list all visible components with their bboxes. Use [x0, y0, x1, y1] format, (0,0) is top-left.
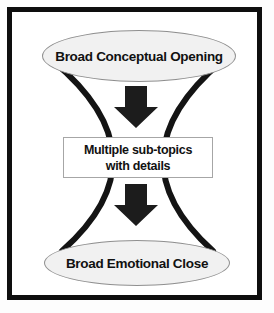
down-arrow-icon-top	[114, 86, 158, 128]
down-arrow-icon-bottom	[114, 184, 158, 226]
close-label: Broad Emotional Close	[66, 256, 208, 271]
opening-ellipse: Broad Conceptual Opening	[42, 30, 236, 82]
diagram-canvas: Broad Conceptual Opening Multiple sub-to…	[0, 0, 274, 313]
subtopics-line2: with details	[106, 158, 170, 174]
opening-label: Broad Conceptual Opening	[55, 49, 223, 64]
close-ellipse: Broad Emotional Close	[44, 240, 230, 286]
subtopics-box: Multiple sub-topics with details	[63, 137, 213, 178]
subtopics-line1: Multiple sub-topics	[84, 142, 192, 158]
